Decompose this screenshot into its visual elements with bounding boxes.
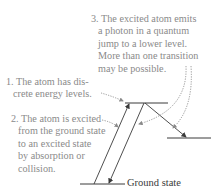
leader-step3b <box>173 66 191 128</box>
leader-step1 <box>101 93 123 101</box>
step-2-annotation: 2. The atom is excited from the ground s… <box>11 113 105 175</box>
step-1-annotation: 1. The atom has dis- crete energy levels… <box>6 76 92 101</box>
step-3-annotation: 3. The excited atom emits a photon in a … <box>91 13 198 75</box>
ground-state-label: Ground state <box>127 177 181 188</box>
emission-to-ground-arrow <box>109 103 144 183</box>
